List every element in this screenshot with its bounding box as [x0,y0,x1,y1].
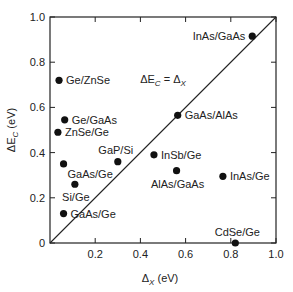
data-point: InAs/Ge [219,170,269,182]
point-marker [219,173,226,180]
point-label: InAs/GaAs [193,30,246,42]
data-point: InSb/Ge [150,149,201,161]
x-tick-label: 0.4 [133,248,148,260]
point-marker [173,167,180,174]
data-point: Ge/ZnSe [55,74,110,86]
x-axis-label: ΔX (eV) [142,272,179,287]
point-label: InSb/Ge [161,149,201,161]
point-label: Ge/GaAs [72,114,118,126]
point-label: CdSe/Ge [215,226,260,238]
data-point: Ge/GaAs [61,114,117,126]
data-point: Si/Ge [62,181,90,204]
point-label: GaP/Si [98,144,133,156]
point-marker [54,129,61,136]
y-tick-label: 0.2 [30,192,45,204]
data-point: InAs/GaAs [193,30,256,42]
point-label: GaAs/Ge [68,168,113,180]
point-marker [60,210,67,217]
data-point: ZnSe/Ge [54,126,109,138]
data-points: InAs/GaAsGe/ZnSeGaAs/AlAsGe/GaAsZnSe/GeI… [54,30,269,246]
point-marker [55,77,62,84]
y-tick-label: 0.8 [30,56,45,68]
x-tick-label: 1.0 [268,248,283,260]
data-point: GaP/Si [98,144,133,166]
data-point: GaAs/Ge [60,208,116,220]
data-point: AlAs/GaAs [151,167,205,190]
x-tick-label: 0.8 [223,248,238,260]
point-marker [61,116,68,123]
y-tick-label: 0.6 [30,101,45,113]
point-label: ZnSe/Ge [65,126,109,138]
point-marker [174,112,181,119]
y-axis-label: ΔEC (eV) [5,108,20,152]
x-tick-label: 0.6 [178,248,193,260]
point-label: Si/Ge [62,191,90,203]
point-marker [71,181,78,188]
x-tick-label: 0.2 [88,248,103,260]
point-marker [60,160,67,167]
data-point: GaAs/AlAs [174,109,238,121]
point-label: InAs/Ge [230,170,270,182]
point-label: AlAs/GaAs [151,178,205,190]
point-label: GaAs/Ge [71,208,116,220]
point-marker [249,33,256,40]
y-tick-label: 1.0 [30,11,45,23]
scatter-chart: 0.20.40.60.81.000.20.40.60.81.0 InAs/GaA… [0,0,293,292]
point-marker [150,151,157,158]
y-tick-label: 0.4 [30,147,45,159]
reference-line-label: ΔEC = ΔX [140,73,186,88]
point-marker [232,239,239,246]
point-label: GaAs/AlAs [185,109,239,121]
data-point: GaAs/Ge [60,160,113,180]
point-label: Ge/ZnSe [66,74,110,86]
point-marker [114,158,121,165]
y-tick-label: 0 [39,237,45,249]
